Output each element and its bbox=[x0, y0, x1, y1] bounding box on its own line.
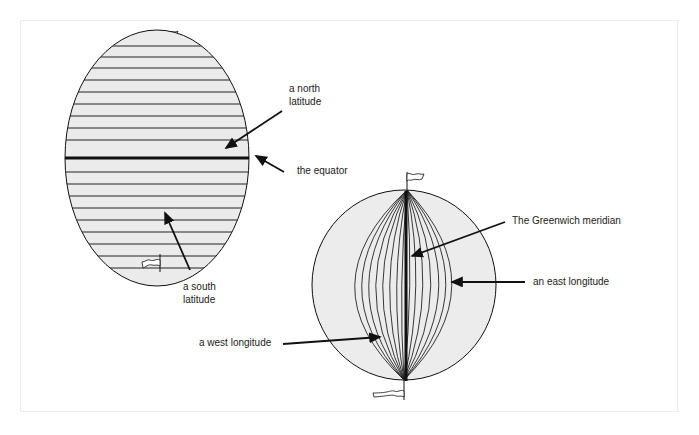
label-line: a south bbox=[183, 280, 216, 293]
label-greenwich: The Greenwich meridian bbox=[512, 214, 621, 227]
label-east-longitude: an east longitude bbox=[533, 275, 609, 288]
label-north-latitude: a north latitude bbox=[289, 82, 321, 108]
label-equator: the equator bbox=[297, 164, 348, 177]
longitude-globe bbox=[283, 172, 525, 400]
label-text: The Greenwich meridian bbox=[512, 215, 621, 226]
label-text: a west longitude bbox=[199, 337, 271, 348]
label-text: the equator bbox=[297, 165, 348, 176]
label-line: latitude bbox=[289, 95, 321, 108]
north-flag-icon bbox=[407, 172, 424, 191]
label-line: a north bbox=[289, 82, 321, 95]
label-line: latitude bbox=[183, 293, 216, 306]
equator-arrow bbox=[256, 156, 284, 172]
label-west-longitude: a west longitude bbox=[199, 336, 271, 349]
label-south-latitude: a south latitude bbox=[183, 280, 216, 306]
latitude-globe bbox=[60, 30, 284, 286]
label-text: an east longitude bbox=[533, 276, 609, 287]
south-flag-icon bbox=[373, 380, 404, 400]
